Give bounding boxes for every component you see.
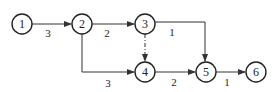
node-5: 5	[196, 62, 216, 82]
node-1: 1	[12, 14, 32, 34]
edge-3-5-duration: 1	[169, 26, 175, 38]
edge-2-4-duration: 3	[105, 77, 111, 89]
node-6: 6	[246, 62, 266, 82]
node-3-label: 3	[142, 17, 148, 31]
edge-2-3: 2	[92, 24, 134, 39]
edge-1-2-duration: 3	[45, 27, 51, 39]
edge-5-6: 1	[216, 72, 245, 88]
edge-5-6-duration: 1	[224, 76, 230, 88]
node-6-label: 6	[253, 65, 259, 79]
network-diagram: 3 2 3 1 2 1 1 2 3 4 5	[0, 0, 279, 92]
edge-3-5: 1	[155, 22, 205, 61]
edge-4-5-duration: 2	[171, 76, 177, 88]
edge-2-4: 3	[82, 34, 134, 89]
edge-2-3-duration: 2	[104, 27, 110, 39]
node-4-label: 4	[142, 65, 148, 79]
node-2: 2	[72, 14, 92, 34]
node-1-label: 1	[19, 17, 25, 31]
node-3: 3	[135, 14, 155, 34]
edge-4-5: 2	[155, 72, 195, 88]
edge-1-2: 3	[32, 24, 71, 39]
node-2-label: 2	[79, 17, 85, 31]
node-4: 4	[135, 62, 155, 82]
node-5-label: 5	[203, 65, 209, 79]
